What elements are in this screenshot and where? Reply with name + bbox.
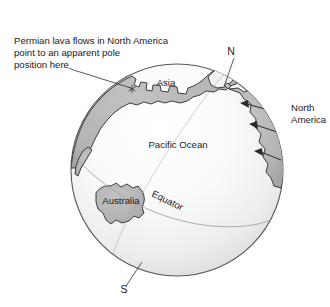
label-pacific-ocean: Pacific Ocean [148, 139, 207, 150]
figure-root: Permian lava flows in North America poin… [0, 0, 330, 307]
annotation-leader-line [69, 68, 131, 88]
annotation-line-1: Permian lava flows in North America [14, 35, 169, 46]
annotation-line-3: position here [14, 59, 69, 70]
label-north-pole: N [227, 45, 235, 57]
globe-diagram: Permian lava flows in North America poin… [0, 0, 330, 307]
label-north-america-line-2: America [291, 114, 327, 125]
label-asia: Asia [157, 77, 176, 88]
label-australia: Australia [102, 195, 140, 206]
label-south-pole: S [120, 283, 127, 295]
annotation-line-2: point to an apparent pole [14, 47, 120, 58]
label-north-america-line-1: North [291, 102, 314, 113]
